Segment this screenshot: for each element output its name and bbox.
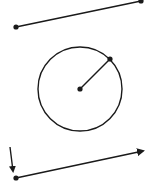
vector-line [16,151,143,178]
circle-center-point [77,86,82,91]
segment-line [16,1,141,27]
geometry-figure [0,0,154,196]
circle-with-radius [38,47,122,131]
vector-ray [13,151,143,181]
segment-endpoint-start [13,24,18,29]
radius-line [80,59,110,89]
radius-endpoint [107,56,112,61]
segment-endpoint-end [138,0,143,4]
vector-origin-point [13,175,18,180]
pointer-arrow [10,147,13,171]
line-segment [13,0,143,30]
